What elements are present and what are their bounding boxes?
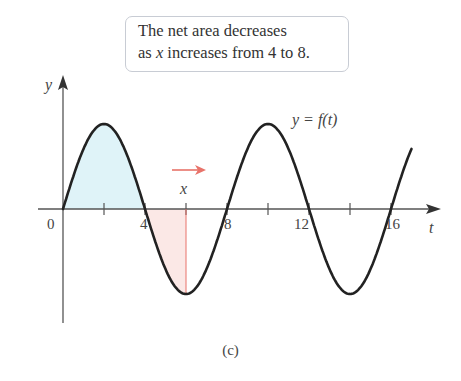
tick-label-8: 8: [224, 216, 232, 232]
figure-caption: (c): [0, 342, 461, 359]
tick-label-4: 4: [140, 216, 148, 232]
function-plot: y t 0 4 8 12 16 x y = f(t): [0, 0, 461, 381]
negative-area-fill: [145, 209, 186, 294]
tick-label-12: 12: [294, 216, 309, 232]
tick-label-16: 16: [385, 216, 401, 232]
t-axis-label: t: [429, 219, 434, 236]
origin-label: 0: [47, 216, 55, 232]
x-marker-label: x: [179, 180, 187, 197]
curve-label: y = f(t): [290, 111, 337, 129]
increase-direction-arrow-icon: [172, 165, 206, 175]
y-axis-label: y: [43, 76, 53, 94]
